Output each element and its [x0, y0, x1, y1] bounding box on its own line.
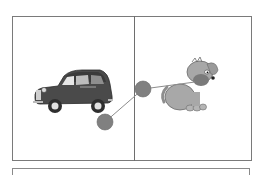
match-dot[interactable]	[135, 81, 151, 97]
dog-icon	[163, 57, 218, 111]
car-icon	[33, 70, 113, 113]
match-dot[interactable]	[97, 114, 113, 130]
worksheet	[0, 0, 269, 175]
